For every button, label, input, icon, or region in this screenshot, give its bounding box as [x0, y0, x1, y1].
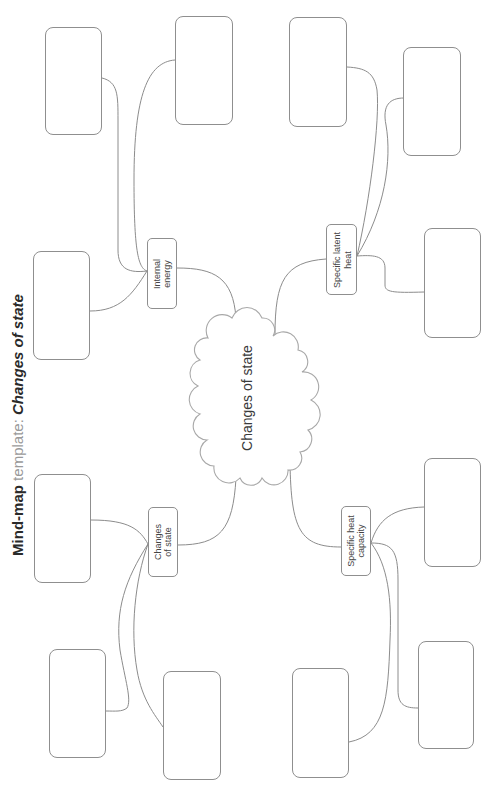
branch-label-line: heat	[342, 251, 353, 269]
empty-answer-box-internal-energy-1	[45, 27, 102, 135]
empty-answer-box-heat-capacity-1	[424, 458, 481, 567]
branch-label-line: energy	[162, 260, 173, 288]
branch-changes-of-state: Changes of state	[148, 507, 178, 577]
title-middle: template:	[9, 415, 26, 481]
empty-answer-box-latent-heat-1	[289, 17, 347, 127]
title-prefix: Mind-map	[9, 481, 26, 556]
connector-heat-capacity-to-box-k	[371, 543, 418, 708]
connector-changes-branch-to-center	[178, 478, 236, 545]
connector-latent-heat-to-box-e	[357, 98, 404, 256]
connector-heat-capacity-to-box-j	[371, 507, 424, 543]
branch-label-line: Internal	[152, 258, 163, 288]
empty-answer-box-latent-heat-3	[424, 228, 481, 338]
connector-latent-heat-to-box-f	[357, 256, 424, 293]
branch-label-line: Changes	[153, 524, 164, 560]
branch-label-line: Specific latent	[331, 231, 342, 287]
empty-answer-box-latent-heat-2	[403, 47, 461, 156]
empty-answer-box-heat-capacity-3	[292, 668, 349, 778]
empty-answer-box-heat-capacity-2	[418, 641, 474, 749]
empty-answer-box-changes-of-state-3	[163, 671, 221, 780]
branch-specific-latent-heat: Specific latent heat	[326, 224, 357, 295]
connector-heat-capacity-to-center	[290, 462, 341, 547]
empty-answer-box-internal-energy-3	[33, 251, 90, 360]
branch-label-line: capacity	[356, 524, 367, 557]
empty-answer-box-internal-energy-2	[175, 16, 233, 125]
connector-latent-heat-to-center	[275, 259, 326, 335]
connector-changes-branch-to-box-h	[106, 544, 148, 711]
branch-label-line: of state	[163, 527, 174, 557]
branch-internal-energy: Internal energy	[147, 238, 177, 309]
title-subject: Changes of state	[9, 294, 26, 415]
branch-label-line: Specific heat	[346, 515, 357, 567]
central-topic-label: Changes of state	[238, 328, 256, 468]
connector-changes-branch-to-box-g	[91, 520, 148, 544]
empty-answer-box-changes-of-state-2	[49, 649, 106, 758]
page-title: Mind-map template: Changes of state	[8, 275, 28, 575]
mind-map-page: Mind-map template: Changes of state Chan…	[0, 0, 489, 801]
connector-box-a-to-internal-energy	[102, 78, 147, 272]
empty-answer-box-changes-of-state-1	[34, 474, 91, 583]
branch-specific-heat-capacity: Specific heat capacity	[341, 506, 371, 576]
connector-box-c-to-internal-energy	[90, 271, 147, 311]
connector-internal-energy-to-center	[177, 268, 236, 318]
